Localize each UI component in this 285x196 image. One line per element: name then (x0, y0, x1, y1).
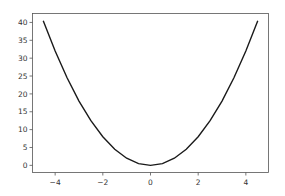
y-tick-label: 0 (23, 161, 28, 170)
line-chart: 0510152025303540 −4−2024 (0, 0, 285, 196)
x-tick-label: 2 (196, 178, 201, 187)
plot-area (33, 14, 269, 173)
y-tick-label: 30 (18, 54, 28, 63)
y-tick-label: 40 (18, 18, 28, 27)
y-tick-label: 15 (18, 107, 28, 116)
x-tick-label: −4 (50, 178, 61, 187)
x-tick-label: 4 (243, 178, 248, 187)
y-axis: 0510152025303540 (18, 18, 33, 170)
y-tick-label: 20 (18, 90, 28, 99)
y-tick-label: 35 (18, 36, 28, 45)
x-tick-label: 0 (148, 178, 153, 187)
x-tick-label: −2 (97, 178, 108, 187)
y-tick-label: 25 (18, 72, 28, 81)
x-axis: −4−2024 (50, 173, 249, 187)
y-tick-label: 5 (23, 143, 28, 152)
y-tick-label: 10 (18, 125, 28, 134)
